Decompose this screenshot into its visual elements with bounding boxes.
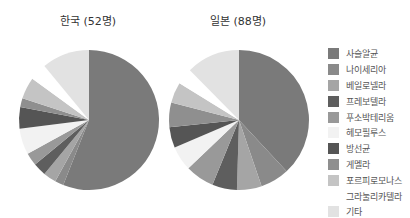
legend-label: 프레보텔라 [346, 95, 386, 108]
legend-swatch [328, 175, 339, 186]
legend-swatch [328, 64, 339, 75]
legend-label: 그라눌리카텔라 [346, 190, 402, 203]
legend-label: 헤모필루스 [346, 126, 386, 139]
legend-label: 방선균 [346, 142, 370, 155]
legend-item: 사슬알균 [328, 46, 402, 62]
legend-label: 나이세리아 [346, 63, 386, 76]
legend-label: 기타 [346, 205, 362, 218]
legend-swatch [328, 80, 339, 91]
legend-item: 베일로넬라 [328, 78, 402, 94]
legend-swatch [328, 191, 339, 202]
legend-label: 포르피로모나스 [346, 174, 402, 187]
legend-swatch [328, 48, 339, 59]
japan-chart-title: 일본 (88명) [163, 12, 313, 28]
legend-swatch [328, 127, 339, 138]
chart-legend: 사슬알균 나이세리아 베일로넬라 프레보텔라 푸소박테리움 헤모필루스 방선균 … [328, 46, 402, 218]
legend-swatch [328, 143, 339, 154]
legend-item: 푸소박테리움 [328, 109, 402, 125]
korea-chart-title: 한국 (52명) [13, 12, 163, 28]
legend-item: 방선균 [328, 141, 402, 157]
legend-swatch [328, 96, 339, 107]
legend-label: 푸소박테리움 [346, 111, 394, 124]
legend-label: 베일로넬라 [346, 79, 386, 92]
legend-item: 나이세리아 [328, 62, 402, 78]
legend-item: 헤모필루스 [328, 125, 402, 141]
legend-swatch [328, 112, 339, 123]
legend-label: 사슬알균 [346, 47, 378, 60]
legend-item: 그라눌리카텔라 [328, 188, 402, 204]
korea-pie-chart [17, 48, 161, 192]
legend-swatch [328, 206, 339, 217]
legend-label: 게멜라 [346, 158, 370, 171]
legend-item: 프레보텔라 [328, 93, 402, 109]
legend-swatch [328, 159, 339, 170]
legend-item: 게멜라 [328, 157, 402, 173]
legend-item: 포르피로모나스 [328, 172, 402, 188]
legend-item: 기타 [328, 204, 402, 218]
japan-pie-chart [167, 48, 311, 192]
